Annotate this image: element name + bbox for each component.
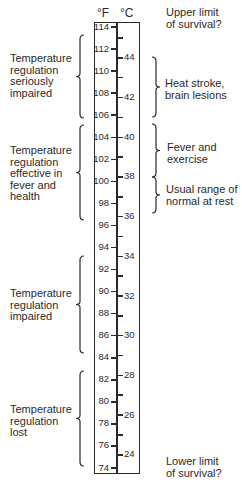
fahrenheit-tick-label: 98 <box>98 198 109 208</box>
fahrenheit-tick-label: 110 <box>94 66 109 76</box>
left-brace-icon <box>76 371 84 466</box>
fahrenheit-tick <box>111 203 117 205</box>
note-line: Heat stroke, <box>165 78 227 90</box>
left-brace-icon <box>76 125 84 220</box>
note-line: impaired <box>10 88 72 100</box>
note-fever-exercise: Fever and exercise <box>167 142 217 165</box>
fahrenheit-tick <box>111 92 117 94</box>
fahrenheit-tick-label: 108 <box>93 88 109 98</box>
celsius-tick <box>117 77 123 79</box>
celsius-tick-label: 36 <box>124 211 135 221</box>
celsius-tick <box>117 216 123 218</box>
note-line: seriously <box>10 76 72 88</box>
celsius-tick <box>117 434 123 436</box>
fahrenheit-tick <box>111 26 117 28</box>
celsius-tick <box>117 156 123 158</box>
fahrenheit-tick-label: 114 <box>94 22 109 32</box>
note-line: lost <box>10 427 72 439</box>
note-lost: Temperature regulation lost <box>10 404 72 439</box>
fahrenheit-tick-label: 78 <box>98 418 109 428</box>
fahrenheit-tick-label: 74 <box>98 463 109 473</box>
celsius-tick-label: 38 <box>124 171 135 181</box>
note-lower-limit: Lower limit of survival? <box>166 456 222 479</box>
celsius-tick-label: 34 <box>124 251 135 261</box>
fahrenheit-tick-label: 104 <box>93 132 109 142</box>
note-line: Usual range of <box>166 184 238 196</box>
celsius-tick-label: 40 <box>124 132 135 142</box>
fahrenheit-tick <box>111 181 117 183</box>
note-heat-stroke: Heat stroke, brain lesions <box>165 78 227 101</box>
fahrenheit-tick-label: 86 <box>98 330 109 340</box>
celsius-tick-label: 26 <box>124 410 135 420</box>
note-seriously-impaired: Temperature regulation seriously impaire… <box>10 53 72 99</box>
fahrenheit-tick <box>111 48 117 50</box>
celsius-tick-label: 42 <box>124 92 135 102</box>
left-brace-icon <box>76 35 84 118</box>
right-brace-icon <box>152 57 160 117</box>
fahrenheit-tick <box>111 423 117 425</box>
celsius-tick <box>117 315 123 317</box>
celsius-tick <box>117 57 123 59</box>
fahrenheit-tick <box>111 70 117 72</box>
note-line: Upper limit <box>166 7 222 19</box>
right-brace-icon <box>152 124 160 177</box>
fahrenheit-tick-label: 76 <box>98 440 109 450</box>
note-effective: Temperature regulation effective in feve… <box>10 145 72 203</box>
celsius-tick <box>117 355 123 357</box>
celsius-tick <box>117 394 123 396</box>
fahrenheit-tick-label: 100 <box>93 176 109 186</box>
celsius-tick-label: 32 <box>124 291 135 301</box>
note-line: impaired <box>10 311 72 323</box>
fahrenheit-tick-label: 80 <box>98 396 109 406</box>
celsius-header: °C <box>120 6 133 20</box>
celsius-tick <box>117 454 123 456</box>
celsius-tick <box>117 97 123 99</box>
celsius-tick <box>117 295 123 297</box>
celsius-tick <box>117 176 123 178</box>
celsius-tick-label: 24 <box>124 449 135 459</box>
note-line: Lower limit <box>166 456 222 468</box>
fahrenheit-tick <box>111 159 117 161</box>
left-brace-icon <box>76 256 84 353</box>
celsius-tick-label: 28 <box>124 370 135 380</box>
note-line: Temperature <box>10 53 72 65</box>
celsius-tick <box>117 196 123 198</box>
note-line: exercise <box>167 154 217 166</box>
note-line: effective in <box>10 168 72 180</box>
note-upper-limit: Upper limit of survival? <box>166 7 222 30</box>
celsius-tick <box>117 117 123 119</box>
fahrenheit-tick <box>111 401 117 403</box>
celsius-tick <box>117 375 123 377</box>
celsius-tick-label: 30 <box>124 330 135 340</box>
note-impaired: Temperature regulation impaired <box>10 288 72 323</box>
celsius-tick <box>117 335 123 337</box>
fahrenheit-tick <box>111 291 117 293</box>
fahrenheit-tick-label: 102 <box>93 154 109 164</box>
note-line: health <box>10 191 72 203</box>
note-line: brain lesions <box>165 90 227 102</box>
celsius-tick <box>117 37 123 39</box>
note-line: Temperature <box>10 145 72 157</box>
note-line: of survival? <box>166 19 222 31</box>
celsius-tick-label: 44 <box>124 52 135 62</box>
note-line: Temperature <box>10 404 72 416</box>
fahrenheit-tick <box>111 247 117 249</box>
fahrenheit-tick-label: 106 <box>93 110 109 120</box>
fahrenheit-tick <box>111 357 117 359</box>
fahrenheit-tick-label: 112 <box>94 44 109 54</box>
note-line: Fever and <box>167 142 217 154</box>
fahrenheit-tick-label: 84 <box>98 352 109 362</box>
celsius-tick <box>117 275 123 277</box>
fahrenheit-header: °F <box>97 6 109 20</box>
fahrenheit-tick-label: 96 <box>98 220 109 230</box>
celsius-tick <box>117 236 123 238</box>
fahrenheit-tick-label: 90 <box>98 286 109 296</box>
fahrenheit-tick <box>111 379 117 381</box>
note-line: normal at rest <box>166 196 238 208</box>
fahrenheit-tick-label: 82 <box>98 374 109 384</box>
note-line: of survival? <box>166 468 222 480</box>
note-usual-range: Usual range of normal at rest <box>166 184 238 207</box>
note-line: Temperature <box>10 288 72 300</box>
fahrenheit-tick <box>111 467 117 469</box>
right-brace-icon <box>152 177 160 213</box>
